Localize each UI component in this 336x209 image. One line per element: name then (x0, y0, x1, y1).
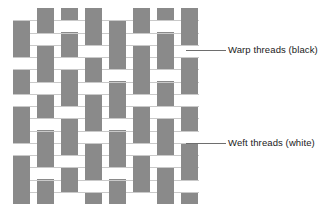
weft-row-divider (181, 57, 198, 58)
weft-thread-segment (13, 57, 30, 69)
weft-thread-segment (37, 118, 54, 130)
weft-row-divider (133, 155, 150, 156)
weft-row-divider (13, 106, 30, 107)
weft-thread-segment (109, 167, 126, 179)
weft-thread-segment (37, 167, 54, 179)
weft-thread-segment (181, 131, 198, 143)
weft-thread-segment (133, 143, 150, 155)
weft-row-divider (157, 33, 174, 34)
weft-row-divider (61, 33, 78, 34)
weft-row-divider (37, 33, 54, 34)
weft-row-divider (157, 82, 174, 83)
weave-diagram-root: Warp threads (black) Weft threads (white… (0, 0, 336, 209)
weft-row-divider (85, 143, 102, 144)
weft-thread-segment (181, 180, 198, 192)
weft-row-divider (133, 106, 150, 107)
weft-thread-segment (85, 180, 102, 192)
weave-pattern-area (13, 8, 199, 204)
weft-thread-segment (157, 69, 174, 81)
weft-row-divider (13, 57, 30, 58)
weft-leader-line (186, 143, 226, 144)
weft-row-divider (85, 57, 102, 58)
weft-row-divider (133, 94, 150, 95)
warp-label: Warp threads (black) (228, 44, 318, 55)
weft-row-divider (109, 131, 126, 132)
weft-thread-segment (157, 20, 174, 32)
weft-thread-segment (61, 155, 78, 167)
weft-row-divider (133, 143, 150, 144)
weft-row-divider (61, 155, 78, 156)
weft-row-divider (85, 94, 102, 95)
weft-thread-segment (133, 33, 150, 45)
weft-row-divider (109, 180, 126, 181)
weft-row-divider (37, 167, 54, 168)
weft-row-divider (61, 192, 78, 193)
weft-row-divider (13, 94, 30, 95)
weft-row-divider (181, 106, 198, 107)
weft-thread-segment (37, 33, 54, 45)
weft-row-divider (85, 180, 102, 181)
weft-thread-segment (157, 155, 174, 167)
weft-row-divider (109, 69, 126, 70)
weft-row-divider (13, 155, 30, 156)
weft-row-divider (61, 167, 78, 168)
weft-row-divider (133, 33, 150, 34)
weft-thread-segment (181, 94, 198, 106)
weft-thread-segment (109, 118, 126, 130)
weft-row-divider (85, 45, 102, 46)
weft-row-divider (181, 94, 198, 95)
weft-thread-segment (61, 192, 78, 204)
weft-row-divider (109, 20, 126, 21)
weft-row-divider (37, 94, 54, 95)
weft-row-divider (133, 192, 150, 193)
weft-thread-segment (157, 106, 174, 118)
weft-row-divider (13, 69, 30, 70)
weft-row-divider (181, 192, 198, 193)
weft-thread-segment (61, 20, 78, 32)
weft-row-divider (157, 167, 174, 168)
weft-thread-segment (13, 94, 30, 106)
weft-row-divider (37, 82, 54, 83)
weft-row-divider (133, 45, 150, 46)
weft-row-divider (157, 118, 174, 119)
weft-row-divider (85, 82, 102, 83)
weft-row-divider (61, 106, 78, 107)
weft-row-divider (61, 118, 78, 119)
weft-row-divider (37, 45, 54, 46)
weft-row-divider (157, 20, 174, 21)
weft-row-divider (157, 69, 174, 70)
weft-row-divider (37, 180, 54, 181)
weft-thread-segment (13, 8, 30, 20)
weft-thread-segment (37, 82, 54, 94)
weft-row-divider (37, 131, 54, 132)
weft-row-divider (61, 20, 78, 21)
weft-row-divider (157, 155, 174, 156)
weft-thread-segment (133, 192, 150, 204)
weft-thread-segment (61, 106, 78, 118)
warp-thread (85, 8, 102, 204)
warp-leader-line (186, 50, 226, 51)
weft-row-divider (37, 118, 54, 119)
weft-label: Weft threads (white) (228, 137, 315, 148)
weft-thread-segment (85, 45, 102, 57)
weft-row-divider (61, 57, 78, 58)
weft-row-divider (109, 82, 126, 83)
weft-thread-segment (109, 8, 126, 20)
weft-row-divider (85, 192, 102, 193)
weft-row-divider (109, 118, 126, 119)
weft-thread-segment (61, 57, 78, 69)
weft-thread-segment (85, 82, 102, 94)
weft-row-divider (13, 143, 30, 144)
weft-row-divider (181, 45, 198, 46)
weft-row-divider (13, 20, 30, 21)
weft-thread-segment (181, 45, 198, 57)
weft-thread-segment (133, 94, 150, 106)
weft-row-divider (61, 69, 78, 70)
weft-row-divider (181, 131, 198, 132)
weft-row-divider (85, 131, 102, 132)
weft-thread-segment (13, 143, 30, 155)
weft-thread-segment (109, 69, 126, 81)
weft-thread-segment (85, 131, 102, 143)
weft-row-divider (157, 106, 174, 107)
weft-row-divider (181, 180, 198, 181)
